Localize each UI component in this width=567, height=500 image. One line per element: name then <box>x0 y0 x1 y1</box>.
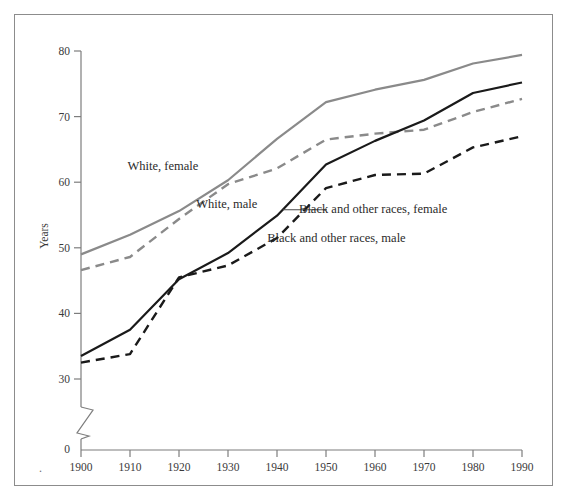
y-axis-break-icon <box>77 407 93 439</box>
x-axis-tick-label: 1980 <box>462 461 485 473</box>
x-axis-tick-label: 1950 <box>315 461 338 473</box>
x-axis-tick-label: 1970 <box>413 461 436 473</box>
y-axis-tick-label: 60 <box>29 176 70 188</box>
y-axis-tick-label: 70 <box>29 111 70 123</box>
y-axis-tick-label: 30 <box>29 373 70 385</box>
decorative-dot: . <box>39 461 42 476</box>
x-axis-tick-label: 1990 <box>511 461 534 473</box>
series-annotation-label: White, male <box>196 197 257 212</box>
series-annotation-label: Black and other races, female <box>299 202 447 217</box>
series-annotation-label: Black and other races, male <box>267 231 405 246</box>
line-chart-plot <box>15 15 552 485</box>
x-axis-tick-label: 1930 <box>217 461 240 473</box>
x-axis-tick-label: 1910 <box>119 461 142 473</box>
series-line-0 <box>81 55 522 254</box>
y-axis-tick-label: 40 <box>29 307 70 319</box>
series-line-2 <box>81 82 522 356</box>
y-axis-tick-label: 80 <box>29 45 70 57</box>
y-axis-zero-label: 0 <box>29 443 70 455</box>
figure-frame: 3040506070800190019101920193019401950196… <box>14 14 553 486</box>
chart-page: 3040506070800190019101920193019401950196… <box>0 0 567 500</box>
x-axis-tick-label: 1920 <box>168 461 191 473</box>
x-axis-tick-label: 1940 <box>266 461 289 473</box>
x-axis-tick-label: 1960 <box>364 461 387 473</box>
y-axis-title: Years <box>38 213 50 259</box>
series-annotation-label: White, female <box>128 159 199 174</box>
x-axis-tick-label: 1900 <box>70 461 93 473</box>
